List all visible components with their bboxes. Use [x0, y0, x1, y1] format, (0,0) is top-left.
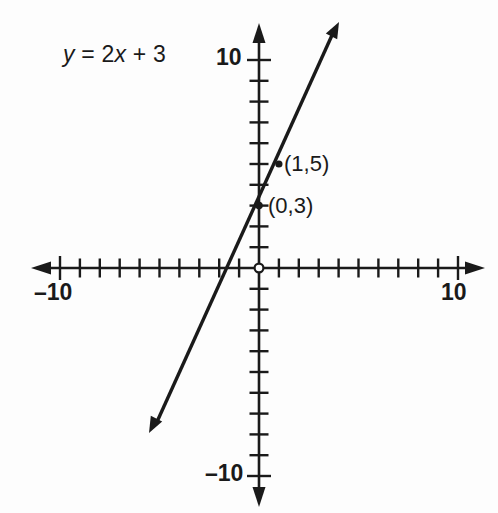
equation-annotation: y = 2x + 3 [63, 43, 166, 66]
graph-figure: y = 2x + 3 10 –10 –10 10 (1,5) (0,3) [0, 0, 498, 513]
equation-lhs: y [63, 41, 75, 67]
equation-rhs: + 3 [126, 41, 166, 67]
x-axis-max-label: 10 [441, 281, 467, 304]
y-axis-max-label: 10 [216, 46, 242, 69]
y-axis-top-arrowhead [253, 23, 266, 43]
equation-equals: = 2 [75, 41, 115, 67]
point-label-0-3: (0,3) [268, 195, 313, 217]
x-axis-right-arrowhead [465, 262, 485, 275]
y-axis-min-label: –10 [205, 462, 243, 485]
x-axis-left-arrowhead [31, 262, 51, 275]
x-axis-min-label: –10 [34, 281, 72, 304]
line-upper-arrowhead [326, 22, 339, 39]
equation-variable: x [115, 41, 127, 67]
line-y-equals-2x-plus-3 [156, 33, 333, 424]
origin-marker [255, 264, 264, 273]
data-point-1-5 [275, 160, 282, 167]
data-point-0-3 [255, 202, 263, 210]
coordinate-plane [0, 0, 498, 513]
y-axis-bottom-arrowhead [253, 487, 266, 507]
point-label-1-5: (1,5) [284, 153, 329, 175]
